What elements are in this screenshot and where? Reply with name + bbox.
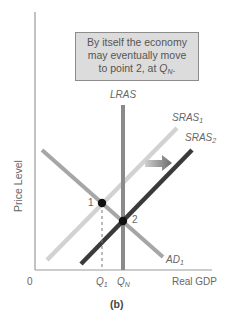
x-axis-label: Real GDP bbox=[172, 276, 217, 287]
qn-tick-label: QN bbox=[117, 276, 130, 288]
figure-caption: (b) bbox=[110, 298, 123, 310]
lras-label: LRAS bbox=[110, 89, 136, 100]
origin-label: 0 bbox=[27, 276, 33, 287]
callout-line-3: to point 2, at QN. bbox=[99, 62, 176, 78]
sras1-label: SRAS1 bbox=[172, 112, 203, 124]
callout-box: By itself the economy may eventually mov… bbox=[75, 32, 199, 81]
sras2-label: SRAS2 bbox=[185, 132, 216, 144]
equilibrium-point-1 bbox=[98, 199, 106, 207]
point-1-label: 1 bbox=[88, 197, 94, 208]
point-2-label: 2 bbox=[132, 214, 138, 225]
callout-line-2: may eventually move bbox=[88, 49, 187, 62]
callout-line-1: By itself the economy bbox=[87, 36, 187, 49]
equilibrium-point-2 bbox=[119, 217, 127, 225]
y-axis-label: Price Level bbox=[12, 156, 24, 216]
sras1-curve bbox=[47, 128, 177, 260]
ad1-label: AD1 bbox=[166, 254, 184, 266]
q1-tick-label: Q1 bbox=[96, 276, 108, 288]
